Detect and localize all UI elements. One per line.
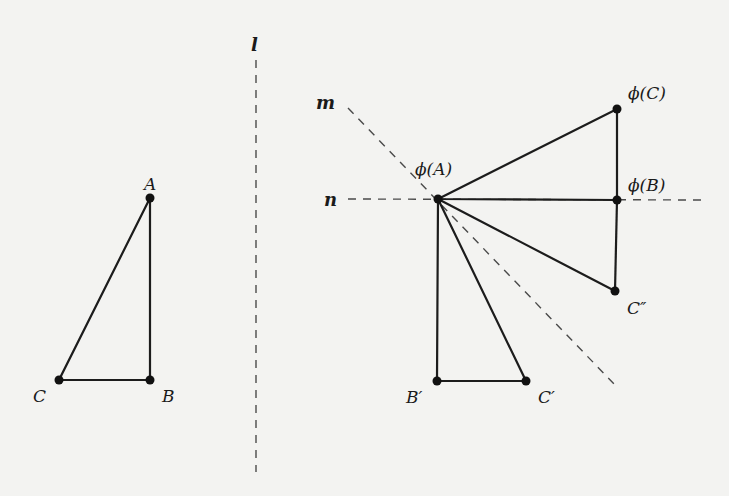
label-c-prime: C′ (538, 387, 555, 407)
label-a: A (142, 174, 156, 194)
triangle-abc (59, 198, 150, 380)
segment-phiB-cpp (615, 200, 617, 291)
point-b-prime (433, 377, 442, 386)
label-b-prime: B′ (405, 387, 422, 407)
point-c (55, 376, 64, 385)
point-phi-a (434, 195, 443, 204)
label-phi-c: ϕ(C) (628, 83, 666, 103)
label-phi-b: ϕ(B) (628, 175, 665, 195)
point-c-double-prime (611, 287, 620, 296)
point-c-prime (522, 377, 531, 386)
label-c-double-prime: C″ (627, 298, 647, 318)
label-c: C (33, 386, 46, 406)
segment-phiA-cpp (438, 199, 615, 291)
label-b: B (161, 386, 175, 406)
triangle-prime (437, 199, 526, 381)
triangle-phi (438, 109, 617, 200)
point-phi-b (613, 196, 622, 205)
point-b (146, 376, 155, 385)
label-line-n: n (324, 189, 337, 210)
label-phi-a: ϕ(A) (415, 159, 452, 179)
point-a (146, 194, 155, 203)
point-phi-c (613, 105, 622, 114)
geometry-diagram: l m n A B C ϕ(A) ϕ(B) ϕ(C) B′ C′ C″ (0, 0, 729, 496)
label-line-l: l (251, 34, 258, 55)
label-line-m: m (316, 92, 335, 113)
line-m (348, 108, 616, 386)
